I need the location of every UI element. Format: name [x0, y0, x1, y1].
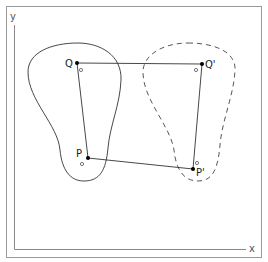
hollow-marker-P	[80, 162, 83, 165]
segment-Qprime-Pprime	[193, 64, 202, 169]
segment-Q-Qprime	[77, 63, 202, 64]
hollow-marker-P-prime	[195, 161, 198, 164]
label-P-prime: P'	[196, 167, 205, 178]
label-Q: Q	[65, 58, 73, 69]
outer-frame	[7, 7, 262, 258]
label-P: P	[76, 148, 82, 159]
point-P	[86, 156, 90, 160]
point-Q	[75, 61, 79, 65]
point-P-prime	[191, 167, 195, 171]
x-axis-label: x	[249, 243, 255, 254]
y-axis-label: y	[10, 11, 16, 22]
segment-Q-P	[77, 63, 88, 158]
kinematics-diagram: y x Q Q' P P'	[0, 0, 268, 262]
hollow-marker-Q	[79, 68, 82, 71]
point-Q-prime	[200, 62, 204, 66]
label-Q-prime: Q'	[205, 59, 216, 70]
hollow-marker-Q-prime	[194, 68, 197, 71]
